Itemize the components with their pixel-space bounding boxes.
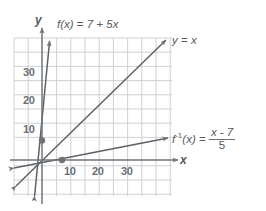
x-tick-20: 20 [92, 166, 104, 177]
x-tick-30: 30 [121, 166, 133, 177]
equation-f-equals: = [77, 18, 84, 30]
x-tick-10: 10 [64, 166, 76, 177]
x-axis-label: x [180, 154, 187, 166]
y-tick-20: 20 [23, 95, 35, 106]
equation-f: f(x) = 7 + 5x [57, 19, 118, 31]
coordinate-plane [0, 0, 266, 211]
point-x-intercept [59, 157, 65, 163]
equation-inverse-argument: (x) [182, 133, 195, 145]
fraction: x - 75 [209, 127, 235, 151]
y-axis-label: y [35, 14, 42, 26]
equation-f-inverse: f-1(x) = x - 75 [172, 128, 235, 152]
fraction-denominator: 5 [209, 140, 235, 152]
equation-f-rhs: 7 + 5x [87, 18, 119, 30]
equation-f-function: f(x) [57, 18, 74, 30]
equation-identity: y = x [172, 35, 197, 47]
equation-identity-lhs: y [172, 34, 178, 46]
graph-figure: y x f(x) = 7 + 5x y = x f-1(x) = x - 75 … [0, 0, 266, 211]
equation-inverse-equals: = [199, 133, 206, 145]
fraction-numerator: x - 7 [209, 127, 235, 140]
y-tick-10: 10 [23, 124, 35, 135]
point-y-intercept [39, 137, 45, 143]
equation-identity-rhs: x [191, 34, 197, 46]
equation-identity-equals: = [181, 34, 188, 46]
y-tick-30: 30 [23, 67, 35, 78]
